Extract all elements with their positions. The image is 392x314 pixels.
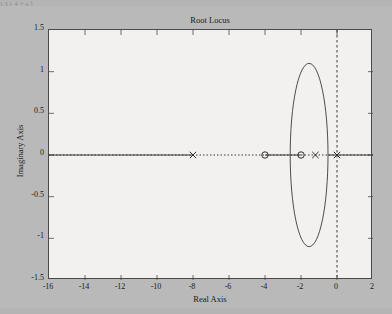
x-tick-label: -4 bbox=[251, 282, 277, 291]
plot-area bbox=[48, 29, 372, 279]
x-tick-label: -14 bbox=[71, 282, 97, 291]
y-axis-label: Imaginary Axis bbox=[15, 101, 25, 201]
y-tick-label: -1 bbox=[14, 231, 44, 240]
x-tick-label: -6 bbox=[215, 282, 241, 291]
x-tick-label: -10 bbox=[143, 282, 169, 291]
plot-svg bbox=[49, 30, 373, 280]
x-tick-label: -12 bbox=[107, 282, 133, 291]
x-tick-label: 2 bbox=[359, 282, 385, 291]
chart-title: Root Locus bbox=[48, 15, 372, 25]
x-tick-label: -2 bbox=[287, 282, 313, 291]
x-tick-label: 0 bbox=[323, 282, 349, 291]
y-tick-label: 1 bbox=[14, 65, 44, 74]
y-tick-label: -1.5 bbox=[14, 273, 44, 282]
x-tick-label: -16 bbox=[35, 282, 61, 291]
y-tick-label: 1.5 bbox=[14, 23, 44, 32]
figure-canvas: Root Locus -16-14-12-10-8-6-4-202 1.510.… bbox=[0, 6, 392, 308]
x-tick-label: -8 bbox=[179, 282, 205, 291]
x-axis-label: Real Axis bbox=[48, 294, 372, 304]
